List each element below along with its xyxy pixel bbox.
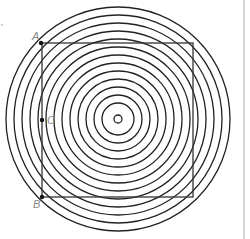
label-b: B [33, 198, 40, 210]
point-c [40, 118, 44, 122]
circle [14, 15, 222, 223]
label-c: C [47, 114, 55, 126]
point-b [40, 195, 44, 199]
circle [94, 95, 142, 143]
square [42, 43, 193, 197]
point-a [39, 41, 43, 45]
concentric-circles-diagram: A B C [0, 0, 250, 239]
stray-mark [1, 24, 3, 26]
circle [54, 55, 182, 183]
circle [114, 115, 122, 123]
circle [70, 71, 166, 167]
circle [102, 103, 134, 135]
circle [46, 47, 190, 191]
label-a: A [31, 30, 39, 42]
circle [86, 87, 150, 151]
circle [62, 63, 174, 175]
circle [78, 79, 158, 159]
circle [30, 31, 206, 207]
